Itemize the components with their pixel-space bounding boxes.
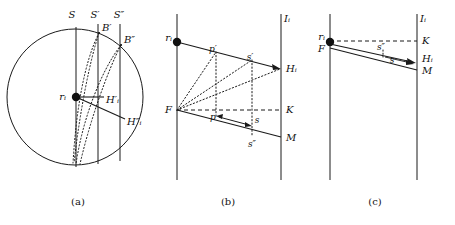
panel-b-segment-p-to-s	[219, 117, 249, 125]
panel-c-source-dot	[326, 38, 334, 46]
panel-b-label-K: K	[285, 104, 294, 115]
panel-b-dotted-F-to-s-prime	[177, 60, 252, 110]
panel-c-label-F: F	[317, 43, 326, 54]
panel-a-label-center-ri: rᵢ	[59, 91, 66, 102]
panel-c-line-F-to-M	[330, 48, 417, 70]
panel-b-label-M: M	[285, 132, 297, 143]
panel-b-arrowhead-H	[272, 64, 281, 70]
panel-b-label-p: p	[210, 112, 216, 122]
panel-b-source-dot	[173, 38, 181, 46]
panel-a-point-B-prime-marker	[98, 32, 100, 34]
panel-b-label-s-double-prime: s″	[248, 139, 257, 149]
panel-a: S S′ S″ B′ B″ rᵢ H′ᵢ H″ᵢ (a)	[7, 9, 143, 207]
panel-a-label-S: S	[69, 9, 76, 20]
panel-b-dotted-F-to-p-prime	[177, 52, 216, 110]
panel-b-label-ri: rᵢ	[165, 32, 172, 43]
panel-b-label-H: Hᵢ	[285, 63, 297, 74]
panel-c-caption: (c)	[368, 196, 382, 207]
panel-c-label-s-double-prime: s″	[377, 42, 386, 52]
panel-a-label-S-prime: S′	[90, 9, 100, 20]
panel-a-center-dot	[72, 93, 80, 101]
panel-b-line-F-to-M	[177, 110, 281, 137]
panel-b-caption: (b)	[221, 196, 235, 207]
panel-c-label-I: Iᵢ	[419, 13, 426, 24]
panel-c-label-K: K	[421, 35, 430, 46]
panel-a-label-H-prime: H′ᵢ	[105, 94, 119, 105]
panel-b-arrowhead-s	[245, 122, 252, 127]
figure-svg: S S′ S″ B′ B″ rᵢ H′ᵢ H″ᵢ (a)	[0, 0, 455, 225]
panel-c-label-ri: rᵢ	[318, 31, 325, 42]
panel-a-label-B-double-prime: B″	[123, 34, 135, 45]
panel-a-label-B-prime: B′	[101, 22, 112, 33]
panel-a-caption: (a)	[71, 196, 85, 207]
panel-c-ray-upper	[330, 44, 412, 62]
panel-c-label-H: Hᵢ	[421, 53, 433, 64]
panel-a-point-B-double-prime-marker	[120, 44, 122, 46]
panel-b-ray-ri-to-H	[177, 42, 277, 68]
panel-b-arrowhead-p	[216, 114, 223, 119]
panel-a-label-H-double-prime: H″ᵢ	[126, 116, 141, 127]
panel-b-dotted-F-to-H	[177, 69, 280, 110]
panel-b: Iᵢ rᵢ p′ s′ Hᵢ F K p s s″ M (b)	[164, 13, 297, 207]
panel-a-label-S-double-prime: S″	[114, 9, 125, 20]
panel-b-label-s: s	[255, 115, 260, 125]
panel-b-label-p-prime: p′	[209, 44, 217, 54]
panel-c: Iᵢ rᵢ F K Hᵢ M s″ s (c)	[317, 13, 433, 207]
figure-container: S S′ S″ B′ B″ rᵢ H′ᵢ H″ᵢ (a)	[0, 0, 455, 225]
panel-c-label-s: s	[390, 55, 395, 65]
panel-b-label-I: Iᵢ	[283, 13, 290, 24]
panel-b-label-F: F	[164, 104, 173, 115]
panel-b-label-s-prime: s′	[247, 52, 254, 62]
panel-c-label-M: M	[421, 65, 433, 76]
